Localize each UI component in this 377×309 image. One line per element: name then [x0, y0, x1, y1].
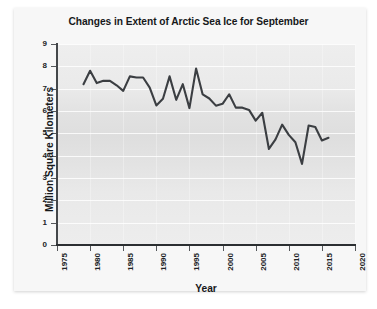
- x-tick-mark-1985: [123, 246, 124, 251]
- chart-title: Changes in Extent of Arctic Sea Ice for …: [0, 16, 377, 27]
- x-tick-label-2005: 2005: [260, 253, 268, 271]
- x-tick-label-2000: 2000: [227, 253, 235, 271]
- gridline-x-2020: [355, 44, 356, 245]
- y-tick-mark-9: [51, 44, 56, 45]
- x-axis-line: [56, 244, 356, 246]
- x-tick-mark-2000: [223, 246, 224, 251]
- chart-figure: Changes in Extent of Arctic Sea Ice for …: [0, 0, 377, 309]
- x-axis-title: Year: [57, 283, 355, 294]
- x-tick-mark-2005: [256, 246, 257, 251]
- x-tick-label-2010: 2010: [293, 253, 301, 271]
- sea-ice-extent-line-series: [57, 44, 355, 245]
- plot-area: [57, 44, 355, 245]
- x-tick-mark-2010: [289, 246, 290, 251]
- y-axis-title: Million Square Kilometers: [44, 50, 55, 250]
- x-tick-mark-1995: [189, 246, 190, 251]
- x-tick-label-1980: 1980: [94, 253, 102, 271]
- x-tick-mark-2015: [322, 246, 323, 251]
- y-axis-line: [56, 43, 58, 246]
- x-tick-label-1975: 1975: [61, 253, 69, 271]
- x-tick-mark-1990: [156, 246, 157, 251]
- x-tick-mark-1980: [90, 246, 91, 251]
- x-tick-label-2020: 2020: [359, 253, 367, 271]
- x-tick-label-1985: 1985: [127, 253, 135, 271]
- x-tick-label-1990: 1990: [160, 253, 168, 271]
- x-tick-mark-1975: [57, 246, 58, 251]
- x-tick-mark-2020: [355, 246, 356, 251]
- series-polyline: [83, 69, 328, 164]
- x-tick-label-1995: 1995: [193, 253, 201, 271]
- y-tick-label-9: 9: [27, 40, 47, 48]
- x-tick-label-2015: 2015: [326, 253, 334, 271]
